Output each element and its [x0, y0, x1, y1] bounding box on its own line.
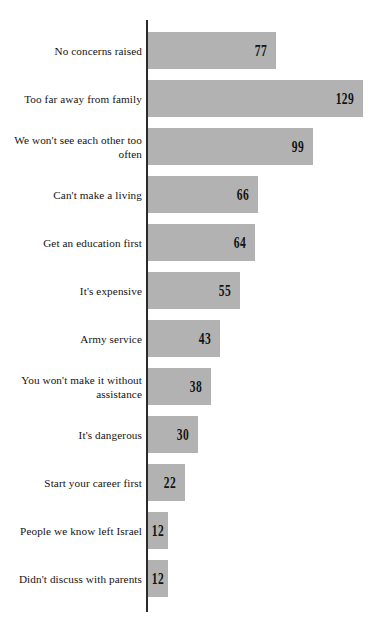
bar-row: No concerns raised77	[0, 32, 383, 80]
bar-container: 12	[148, 560, 168, 597]
bar[interactable]: 66	[148, 176, 258, 213]
bar-container: 22	[148, 464, 185, 501]
bar-value-label: 30	[177, 426, 189, 443]
category-label: We won't see each other too often	[6, 128, 142, 165]
category-label: Start your career first	[6, 464, 142, 501]
plot-area: No concerns raised77Too far away from fa…	[0, 32, 383, 608]
bar-row: You won't make it without assistance38	[0, 368, 383, 416]
bar-value-label: 12	[152, 570, 164, 587]
bar-container: 64	[148, 224, 255, 261]
category-label: It's expensive	[6, 272, 142, 309]
bar-container: 66	[148, 176, 258, 213]
bar[interactable]: 55	[148, 272, 240, 309]
bar-value-label: 129	[336, 90, 354, 107]
bar-container: 38	[148, 368, 211, 405]
bar-row: Too far away from family129	[0, 80, 383, 128]
bar-container: 77	[148, 32, 276, 69]
bar-container: 12	[148, 512, 168, 549]
category-label: Can't make a living	[6, 176, 142, 213]
bar-value-label: 64	[234, 234, 246, 251]
bar[interactable]: 99	[148, 128, 313, 165]
bar[interactable]: 12	[148, 560, 168, 597]
bar-row: Didn't discuss with parents12	[0, 560, 383, 608]
bar-container: 129	[148, 80, 363, 117]
bar-container: 55	[148, 272, 240, 309]
bar-value-label: 22	[164, 474, 176, 491]
bar-row: Can't make a living66	[0, 176, 383, 224]
bar-row: Get an education first64	[0, 224, 383, 272]
category-label: People we know left Israel	[6, 512, 142, 549]
bar-container: 30	[148, 416, 198, 453]
bar[interactable]: 129	[148, 80, 363, 117]
bar-value-label: 12	[152, 522, 164, 539]
category-label: Army service	[6, 320, 142, 357]
bar-value-label: 77	[255, 42, 267, 59]
bar-value-label: 55	[219, 282, 231, 299]
bar[interactable]: 12	[148, 512, 168, 549]
bar-value-label: 66	[237, 186, 249, 203]
bar-row: People we know left Israel12	[0, 512, 383, 560]
category-label: You won't make it without assistance	[6, 368, 142, 405]
bar[interactable]: 30	[148, 416, 198, 453]
bar-row: It's dangerous30	[0, 416, 383, 464]
bar[interactable]: 43	[148, 320, 220, 357]
bar-row: Start your career first22	[0, 464, 383, 512]
horizontal-bar-chart: No concerns raised77Too far away from fa…	[0, 0, 383, 640]
bar[interactable]: 64	[148, 224, 255, 261]
bar-value-label: 38	[190, 378, 202, 395]
bar[interactable]: 77	[148, 32, 276, 69]
bar-row: It's expensive55	[0, 272, 383, 320]
bar-value-label: 43	[199, 330, 211, 347]
bar-container: 99	[148, 128, 313, 165]
category-label: Get an education first	[6, 224, 142, 261]
category-label: Too far away from family	[6, 80, 142, 117]
bar[interactable]: 22	[148, 464, 185, 501]
bar-row: We won't see each other too often99	[0, 128, 383, 176]
category-label: No concerns raised	[6, 32, 142, 69]
category-label: Didn't discuss with parents	[6, 560, 142, 597]
bar-container: 43	[148, 320, 220, 357]
category-label: It's dangerous	[6, 416, 142, 453]
bar-value-label: 99	[292, 138, 304, 155]
bar-row: Army service43	[0, 320, 383, 368]
bar[interactable]: 38	[148, 368, 211, 405]
